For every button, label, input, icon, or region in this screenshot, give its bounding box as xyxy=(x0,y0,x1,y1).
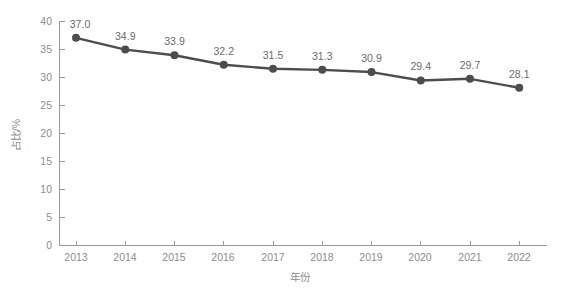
y-axis-ticks xyxy=(60,21,65,217)
data-label-2022: 28.1 xyxy=(509,68,530,80)
data-label-2018: 31.3 xyxy=(312,50,333,62)
y-tick-label: 10 xyxy=(40,183,52,195)
x-tick-label-2017: 2017 xyxy=(261,251,285,263)
x-tick-label-2018: 2018 xyxy=(310,251,334,263)
x-tick-label-2013: 2013 xyxy=(64,251,88,263)
x-tick-label-2016: 2016 xyxy=(211,251,235,263)
chart-axes xyxy=(60,21,547,246)
y-tick-label: 0 xyxy=(46,239,52,251)
data-point-2017 xyxy=(269,65,277,73)
x-tick-label-2021: 2021 xyxy=(458,251,482,263)
y-tick-label: 30 xyxy=(40,71,52,83)
x-tick-label-2020: 2020 xyxy=(408,251,432,263)
data-label-2014: 34.9 xyxy=(115,30,136,42)
data-label-2015: 33.9 xyxy=(164,35,185,47)
series-line-proportion xyxy=(76,38,519,88)
series-markers xyxy=(72,34,523,92)
data-point-2016 xyxy=(220,61,228,69)
data-point-2014 xyxy=(121,46,129,54)
x-axis-tick-labels: 2013 2014 2015 2016 2017 2018 2019 2020 … xyxy=(64,251,531,263)
y-axis-tick-labels: 40 35 30 25 20 15 10 5 0 xyxy=(40,15,52,251)
figure-caption xyxy=(0,284,561,291)
x-tick-label-2022: 2022 xyxy=(507,251,531,263)
x-axis-ticks xyxy=(76,241,519,246)
x-tick-label-2019: 2019 xyxy=(359,251,383,263)
data-label-2021: 29.7 xyxy=(460,59,481,71)
data-label-2020: 29.4 xyxy=(411,60,432,72)
chart-plot-area: 40 35 30 25 20 15 10 5 0 占比/% 2013 xyxy=(0,0,561,291)
data-point-2022 xyxy=(515,84,523,92)
x-tick-label-2014: 2014 xyxy=(113,251,137,263)
x-axis-title: 年份 xyxy=(290,271,311,283)
y-tick-label: 40 xyxy=(40,15,52,27)
y-tick-label: 15 xyxy=(40,155,52,167)
data-label-2016: 32.2 xyxy=(214,45,235,57)
data-point-2020 xyxy=(417,76,425,84)
y-tick-label: 5 xyxy=(46,211,52,223)
data-label-2013: 37.0 xyxy=(70,18,91,30)
y-tick-label: 35 xyxy=(40,43,52,55)
data-point-2021 xyxy=(466,75,474,83)
line-chart: 40 35 30 25 20 15 10 5 0 占比/% 2013 xyxy=(0,0,561,291)
data-point-2018 xyxy=(318,66,326,74)
data-label-2017: 31.5 xyxy=(263,49,284,61)
data-point-2019 xyxy=(368,68,376,76)
data-point-2015 xyxy=(171,51,179,59)
y-tick-label: 25 xyxy=(40,99,52,111)
data-label-2019: 30.9 xyxy=(361,52,382,64)
x-tick-label-2015: 2015 xyxy=(162,251,186,263)
data-point-2013 xyxy=(72,34,80,42)
y-axis-title: 占比/% xyxy=(10,119,22,151)
y-tick-label: 20 xyxy=(40,127,52,139)
